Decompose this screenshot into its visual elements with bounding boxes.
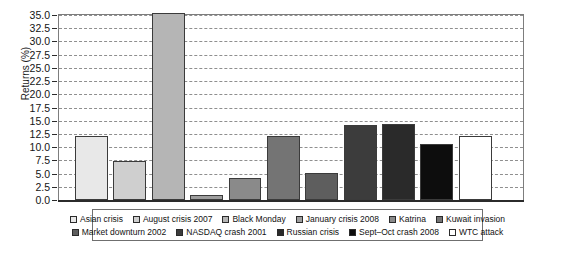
legend-item[interactable]: Black Monday	[222, 215, 285, 224]
y-axis-tick	[52, 94, 57, 95]
y-axis-tick	[52, 28, 57, 29]
legend-label: Market downturn 2002	[82, 228, 167, 237]
legend-item[interactable]: Katrina	[389, 215, 426, 224]
y-axis-tick	[52, 147, 57, 148]
x-axis-line	[58, 200, 524, 202]
bar-asian-crisis	[75, 136, 108, 200]
chart-legend: Asian crisisAugust crisis 2007Black Mond…	[92, 209, 483, 241]
legend-row-1: Asian crisisAugust crisis 2007Black Mond…	[97, 213, 478, 226]
y-axis-tick-label: 15.0	[0, 116, 50, 126]
bar-kuwait-invasion	[267, 136, 300, 200]
y-axis-tick	[52, 81, 57, 82]
legend-item[interactable]: January crisis 2008	[296, 215, 379, 224]
y-axis-tick-label: 32.5	[0, 23, 50, 33]
legend-swatch-icon	[449, 229, 456, 236]
legend-label: Asian crisis	[80, 215, 123, 224]
y-axis-tick	[52, 68, 57, 69]
legend-label: January crisis 2008	[306, 215, 379, 224]
legend-label: Kuwait invasion	[446, 215, 505, 224]
y-axis-tick	[52, 55, 57, 56]
bar-wtc-attack	[459, 136, 492, 200]
legend-swatch-icon	[133, 216, 140, 223]
y-axis-tick	[52, 108, 57, 109]
y-axis-tick	[52, 15, 57, 16]
y-axis-tick	[52, 187, 57, 188]
y-axis-tick-label: 12.5	[0, 129, 50, 139]
y-axis-tick-label: 0.0	[0, 195, 50, 205]
legend-swatch-icon	[176, 229, 183, 236]
bar-series	[59, 15, 523, 200]
legend-label: August crisis 2007	[143, 215, 212, 224]
y-axis-tick-label: 27.5	[0, 50, 50, 60]
legend-item[interactable]: August crisis 2007	[133, 215, 212, 224]
y-axis-tick	[52, 200, 57, 201]
legend-label: WTC attack	[459, 228, 503, 237]
legend-swatch-icon	[296, 216, 303, 223]
legend-item[interactable]: Sept–Oct crash 2008	[349, 228, 439, 237]
legend-swatch-icon	[349, 229, 356, 236]
legend-row-2: Market downturn 2002NASDAQ crash 2001Rus…	[97, 226, 478, 239]
legend-label: NASDAQ crash 2001	[186, 228, 266, 237]
bar-russian-crisis	[382, 124, 415, 200]
bar-nasdaq-crash-2001	[344, 125, 377, 200]
y-axis-tick-label: 20.0	[0, 89, 50, 99]
bar-august-crisis-2007	[113, 161, 146, 200]
y-axis-tick-label: 5.0	[0, 169, 50, 179]
y-axis-tick-label: 22.5	[0, 76, 50, 86]
y-axis-tick	[52, 121, 57, 122]
y-axis-tick-label: 35.0	[0, 10, 50, 20]
y-axis-tick-label: 10.0	[0, 142, 50, 152]
y-axis-tick-label: 25.0	[0, 63, 50, 73]
legend-item[interactable]: NASDAQ crash 2001	[176, 228, 266, 237]
y-axis-tick	[52, 134, 57, 135]
y-axis-tick-label: 2.5	[0, 182, 50, 192]
bar-katrina	[229, 178, 262, 200]
legend-item[interactable]: WTC attack	[449, 228, 503, 237]
bar-market-downturn-2002	[305, 173, 338, 200]
y-axis-tick-label: 17.5	[0, 103, 50, 113]
legend-label: Sept–Oct crash 2008	[359, 228, 439, 237]
chart-container: Returns (%) 35.032.530.027.525.022.520.0…	[0, 0, 567, 258]
legend-item[interactable]: Market downturn 2002	[72, 228, 167, 237]
y-axis-tick	[52, 160, 57, 161]
legend-item[interactable]: Asian crisis	[70, 215, 123, 224]
legend-swatch-icon	[72, 229, 79, 236]
legend-swatch-icon	[277, 229, 284, 236]
plot-area	[58, 14, 524, 201]
legend-label: Russian crisis	[287, 228, 339, 237]
legend-item[interactable]: Kuwait invasion	[436, 215, 505, 224]
legend-label: Katrina	[399, 215, 426, 224]
legend-label: Black Monday	[232, 215, 285, 224]
legend-swatch-icon	[389, 216, 396, 223]
bar-black-monday	[152, 13, 185, 200]
y-axis-tick	[52, 41, 57, 42]
legend-item[interactable]: Russian crisis	[277, 228, 339, 237]
y-axis-tick-label: 30.0	[0, 36, 50, 46]
y-axis-tick-label: 7.5	[0, 155, 50, 165]
legend-swatch-icon	[222, 216, 229, 223]
legend-swatch-icon	[70, 216, 77, 223]
bar-sept-oct-crash-2008	[420, 144, 453, 200]
legend-swatch-icon	[436, 216, 443, 223]
y-axis-tick	[52, 174, 57, 175]
